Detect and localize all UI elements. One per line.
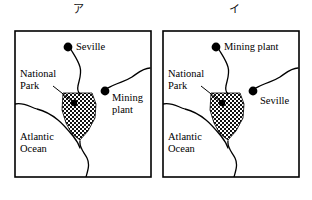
map-panel-a: ア — [0, 0, 156, 200]
two-panel-map-figure: ア — [0, 0, 312, 200]
panel-a-label-national-park: National Park — [20, 68, 56, 91]
panel-a-label-mining-plant: Mining plant — [112, 92, 143, 115]
panel-a-label-atlantic-ocean: Atlantic Ocean — [20, 131, 54, 154]
panel-b-dot-seville — [249, 87, 258, 96]
panel-a-dot-park-marker — [71, 100, 77, 106]
panel-b-label-national-park: National Park — [168, 68, 204, 91]
panel-b-dot-mining-plant — [212, 43, 221, 52]
map-panel-b: イ — [156, 0, 312, 200]
panel-b-label-atlantic-ocean: Atlantic Ocean — [168, 131, 202, 154]
panel-b-dot-park-marker — [219, 100, 225, 106]
panel-b-label-seville: Seville — [260, 95, 289, 107]
panel-b-label-mining-plant: Mining plant — [224, 41, 279, 53]
panel-a-dot-mining-plant — [101, 87, 110, 96]
panel-a-dot-seville — [64, 43, 73, 52]
panel-a-label-seville: Seville — [76, 41, 105, 53]
